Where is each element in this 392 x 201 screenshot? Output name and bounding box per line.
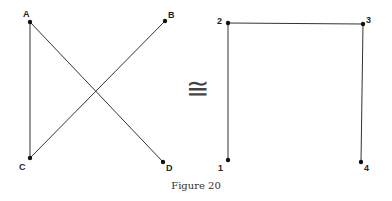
label-2: 2 xyxy=(217,16,222,26)
label-3: 3 xyxy=(366,15,371,25)
edge-3-4 xyxy=(361,24,363,162)
right-graph: 1 2 3 4 xyxy=(217,15,371,173)
left-graph: A B C D xyxy=(19,9,175,173)
edge-c-b xyxy=(30,21,165,158)
vertex-1 xyxy=(226,158,230,162)
label-c: C xyxy=(19,162,26,172)
vertex-2 xyxy=(226,21,230,25)
label-d: D xyxy=(166,163,173,173)
figure-canvas: A B C D ≅ 1 2 3 4 Figure 20 xyxy=(0,0,392,201)
label-a: A xyxy=(23,9,30,19)
edge-2-3 xyxy=(228,23,363,24)
label-b: B xyxy=(168,10,175,20)
figure-caption: Figure 20 xyxy=(171,180,221,191)
vertex-b xyxy=(163,19,167,23)
vertex-4 xyxy=(359,160,363,164)
congruence-symbol: ≅ xyxy=(186,72,209,105)
vertex-3 xyxy=(361,22,365,26)
vertex-c xyxy=(28,156,32,160)
vertex-a xyxy=(28,20,32,24)
vertex-d xyxy=(161,160,165,164)
label-1: 1 xyxy=(218,163,223,173)
label-4: 4 xyxy=(364,163,369,173)
